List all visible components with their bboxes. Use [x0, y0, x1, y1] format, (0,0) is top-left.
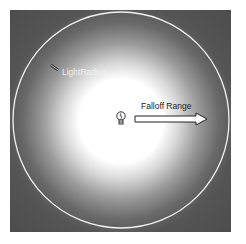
light-bulb-icon: [117, 112, 125, 124]
diagram-overlay: [0, 0, 246, 244]
arrow-right-icon: [135, 113, 207, 125]
falloff-range-label: Falloff Range: [141, 101, 191, 111]
light-radius-label: LightRadius: [62, 67, 107, 77]
